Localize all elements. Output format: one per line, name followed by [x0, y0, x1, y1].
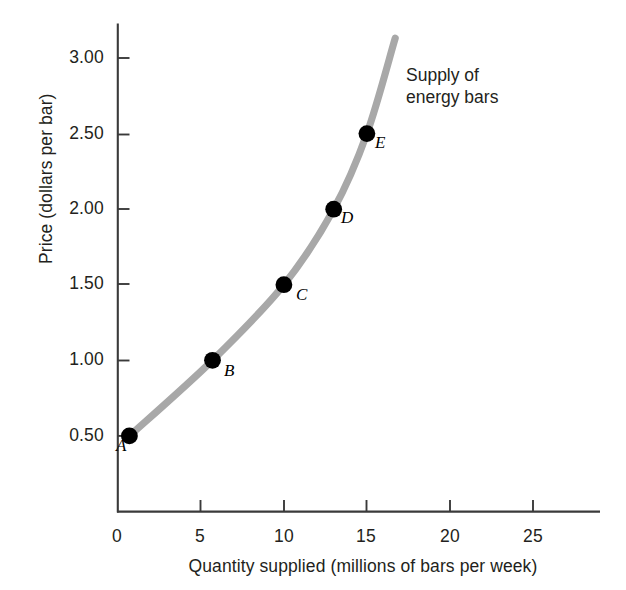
x-axis-title: Quantity supplied (millions of bars per …: [163, 556, 563, 577]
data-point-C: [276, 276, 293, 293]
y-tick-label-0.50: 0.50: [40, 425, 104, 446]
data-point-B: [204, 352, 221, 369]
point-label-E: E: [375, 133, 385, 153]
x-axis-ticks: [201, 500, 534, 512]
curve-annotation-line-2: energy bars: [406, 86, 498, 108]
point-label-D: D: [341, 208, 353, 228]
data-point-markers: [121, 125, 375, 444]
point-label-C: C: [296, 285, 307, 305]
y-tick-label-1.00: 1.00: [40, 349, 104, 370]
y-tick-label-1.50: 1.50: [40, 273, 104, 294]
x-tick-label-10: 10: [262, 526, 306, 547]
data-point-E: [359, 125, 376, 142]
y-axis-ticks: [118, 58, 130, 436]
data-point-D: [325, 201, 342, 218]
curve-annotation: Supply of energy bars: [406, 64, 498, 109]
x-tick-label-20: 20: [428, 526, 472, 547]
point-label-B: B: [224, 361, 234, 381]
chart-canvas: [0, 0, 626, 590]
x-tick-label-0: 0: [95, 526, 139, 547]
y-tick-label-3.00: 3.00: [40, 47, 104, 68]
x-tick-label-15: 15: [344, 526, 388, 547]
point-label-A: A: [116, 436, 126, 456]
supply-curve-figure: 3.00 2.50 2.00 1.50 1.00 0.50 0 5 10 15 …: [0, 0, 626, 590]
y-axis-title: Price (dollars per bar): [36, 93, 57, 264]
x-tick-label-5: 5: [178, 526, 222, 547]
curve-annotation-line-1: Supply of: [406, 64, 498, 86]
x-tick-label-25: 25: [511, 526, 555, 547]
supply-curve-line: [129, 38, 395, 436]
